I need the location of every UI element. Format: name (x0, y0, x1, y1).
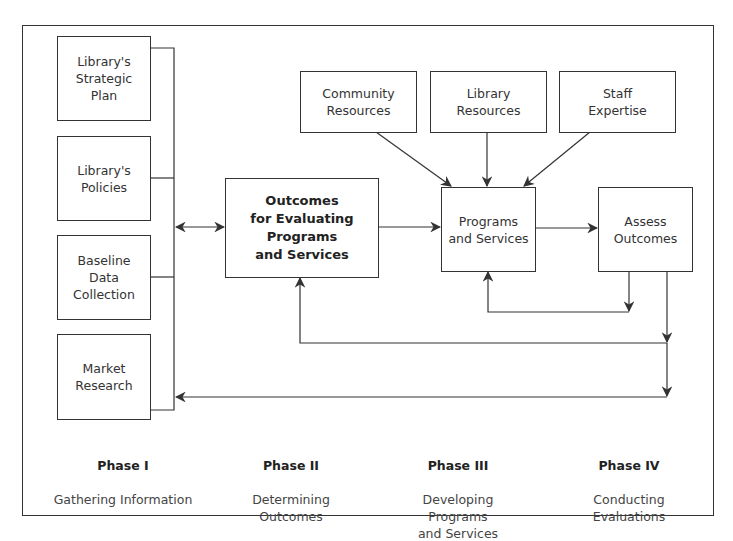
community-resources-box: Community Resources (300, 71, 417, 133)
market-research-box: Market Research (57, 334, 151, 420)
assess-outcomes-box: Assess Outcomes (598, 187, 693, 272)
phase1-bracket-line (150, 48, 174, 410)
phase-3-label: Phase III Developing Programs and Servic… (383, 440, 533, 541)
phase-2-label: Phase II Determining Outcomes (216, 440, 366, 525)
phase-3-title: Phase III (383, 457, 533, 474)
phase-1-label: Phase I Gathering Information (48, 440, 198, 508)
phase-3-subtitle: Developing Programs and Services (418, 492, 498, 541)
phase-2-subtitle: Determining Outcomes (252, 492, 330, 524)
phase-4-label: Phase IV Conducting Evaluations (554, 440, 704, 525)
phase-4-subtitle: Conducting Evaluations (593, 492, 665, 524)
programs-services-box: Programs and Services (441, 187, 536, 272)
phase-1-subtitle: Gathering Information (54, 492, 193, 507)
library-resources-box: Library Resources (430, 71, 547, 133)
outcomes-box: Outcomes for Evaluating Programs and Ser… (225, 178, 379, 278)
baseline-data-box: Baseline Data Collection (57, 235, 151, 320)
phase-4-title: Phase IV (554, 457, 704, 474)
phase-1-title: Phase I (48, 457, 198, 474)
staff-expertise-box: Staff Expertise (559, 71, 676, 133)
phase-2-title: Phase II (216, 457, 366, 474)
strategic-plan-box: Library's Strategic Plan (57, 36, 151, 121)
policies-box: Library's Policies (57, 136, 151, 221)
